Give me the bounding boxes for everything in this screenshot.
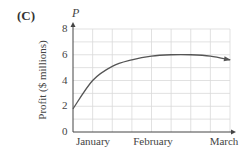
x-tick-label: February [133, 135, 173, 147]
y-tick-label: 6 [62, 48, 68, 60]
x-axis-arrow-icon [231, 130, 236, 135]
y-tick-label: 0 [62, 125, 68, 137]
y-axis-arrow-icon [71, 22, 76, 27]
x-tick-label: March [210, 135, 239, 147]
y-tick-label: 2 [62, 99, 68, 111]
y-axis-label: Profit ($ millions) [36, 40, 48, 119]
y-tick-label: 4 [62, 74, 68, 86]
y-tick-label: 8 [62, 22, 68, 34]
x-tick-label: January [76, 135, 110, 147]
